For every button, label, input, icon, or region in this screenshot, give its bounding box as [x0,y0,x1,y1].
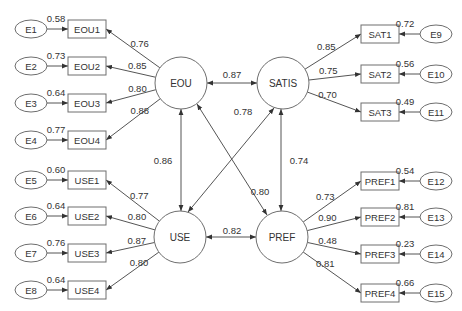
error-label: E2 [25,61,37,72]
indicator-label: USE3 [75,248,100,259]
indicator-label: USE2 [75,211,100,222]
loading-value: 0.76 [130,38,149,49]
indicator-label: SAT2 [368,69,391,80]
latent-label: USE [170,232,191,243]
error-variance-value: 0.60 [47,164,66,175]
latent-label: PREF [269,232,296,243]
error-label: E9 [430,29,442,40]
loading-value: 0.90 [318,212,337,223]
latent-label: EOU [170,78,192,89]
correlation-value: 0.86 [154,155,173,166]
indicator-label: EOU3 [74,98,100,109]
latent-label: SATIS [269,78,297,89]
loading-value: 0.87 [127,235,146,246]
error-label: E11 [428,107,444,118]
loading-value: 0.70 [318,89,337,100]
error-variance-value: 0.23 [396,238,415,249]
loading-value: 0.80 [128,211,147,222]
error-variance-value: 0.64 [47,274,66,285]
loading-value: 0.81 [316,258,335,269]
indicator-label: PREF2 [365,212,396,223]
indicator-label: EOU2 [74,61,100,72]
correlation-eou-pref [197,104,267,215]
correlation-value: 0.80 [251,186,270,197]
error-label: E14 [428,249,445,260]
indicator-label: SAT3 [368,107,391,118]
error-label: E12 [428,176,445,187]
error-label: E4 [25,135,37,146]
loading-value: 0.88 [131,105,150,116]
indicator-label: SAT1 [368,29,391,40]
error-variance-value: 0.81 [396,201,415,212]
indicator-label: PREF4 [365,288,396,299]
error-label: E5 [25,175,37,186]
error-variance-value: 0.58 [47,13,66,24]
indicator-label: USE4 [75,285,100,296]
error-label: E15 [428,288,445,299]
error-label: E8 [25,285,37,296]
sem-path-diagram: EOUSATISUSEPREFEOU1E10.580.76EOU2E20.730… [0,0,462,311]
error-variance-value: 0.76 [47,237,66,248]
correlation-value: 0.74 [290,155,309,166]
loading-value: 0.80 [130,257,149,268]
error-variance-value: 0.77 [47,124,66,135]
indicator-label: PREF1 [365,176,396,187]
error-variance-value: 0.72 [396,18,415,29]
correlation-value: 0.87 [223,69,242,80]
error-variance-value: 0.73 [47,50,66,61]
error-label: E7 [25,248,37,259]
error-label: E13 [428,212,445,223]
loading-value: 0.80 [128,83,147,94]
loading-value: 0.85 [317,41,336,52]
error-label: E6 [25,211,37,222]
error-label: E10 [428,69,445,80]
error-label: E3 [25,98,37,109]
indicator-label: USE1 [75,175,100,186]
error-variance-value: 0.49 [396,96,415,107]
error-variance-value: 0.64 [47,87,66,98]
error-variance-value: 0.64 [47,200,66,211]
loading-value: 0.85 [128,60,147,71]
error-variance-value: 0.54 [396,165,415,176]
error-label: E1 [25,24,37,35]
indicator-label: PREF3 [365,249,396,260]
diagram-canvas: EOUSATISUSEPREFEOU1E10.580.76EOU2E20.730… [0,0,462,311]
indicator-label: EOU1 [74,24,100,35]
correlation-value: 0.78 [234,106,253,117]
error-variance-value: 0.66 [396,277,415,288]
indicator-label: EOU4 [74,135,100,146]
loading-value: 0.77 [130,190,149,201]
correlation-value: 0.82 [223,225,242,236]
loading-value: 0.75 [319,65,338,76]
loading-value: 0.48 [318,235,337,246]
error-variance-value: 0.56 [396,58,415,69]
loading-value: 0.73 [316,191,335,202]
